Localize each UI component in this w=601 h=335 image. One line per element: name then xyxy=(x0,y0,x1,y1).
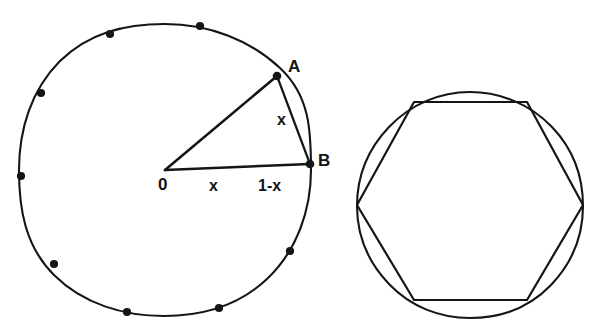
vertex-dot-10 xyxy=(196,22,204,30)
vertex-dot-6 xyxy=(50,260,58,268)
label-origin: 0 xyxy=(158,176,167,193)
vertex-dot-5 xyxy=(123,308,131,316)
vertex-dot-9 xyxy=(106,30,114,38)
radius-line-ob xyxy=(165,164,310,170)
label-point-b: B xyxy=(318,152,330,169)
vertex-dot-a xyxy=(273,72,282,81)
vertex-dot-b xyxy=(306,160,315,169)
vertex-dot-8 xyxy=(37,89,45,97)
vertex-dot-7 xyxy=(17,172,25,180)
radius-line-oa xyxy=(165,76,277,170)
label-radius-segment: x xyxy=(209,178,218,194)
label-point-a: A xyxy=(288,58,300,75)
right-circle-outline xyxy=(357,92,583,318)
geometry-figure-svg xyxy=(0,0,601,335)
label-outer-segment: 1-x xyxy=(258,178,281,194)
label-chord-ab: x xyxy=(277,112,286,128)
vertex-dot-4 xyxy=(215,304,223,312)
vertex-dot-3 xyxy=(286,247,294,255)
figure-canvas: A B x 0 x 1-x xyxy=(0,0,601,335)
left-circle-group xyxy=(17,22,314,316)
inscribed-hexagon xyxy=(357,102,583,300)
right-circle-group xyxy=(357,92,583,318)
